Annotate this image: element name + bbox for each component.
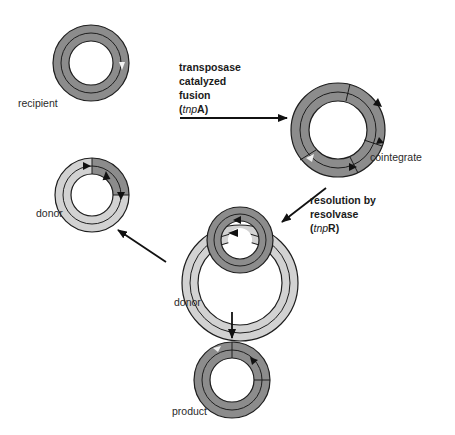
step-fusion-line3: fusion	[179, 88, 241, 102]
enzyme-prefix: tnp	[314, 222, 329, 234]
enzyme-prefix: tnp	[183, 103, 198, 115]
label-product: product	[172, 405, 207, 417]
donor-bottom-plasmid	[182, 207, 298, 341]
step-resolution-enzyme: (tnpR)	[310, 221, 376, 235]
label-donor-bottom: donor	[174, 296, 201, 308]
step-resolution-line2: resolvase	[310, 207, 376, 221]
label-cointegrate: cointegrate	[370, 151, 422, 163]
step-fusion-enzyme: (tnpA)	[179, 102, 241, 116]
label-recipient: recipient	[18, 97, 58, 109]
step-fusion-label: transposase catalyzed fusion (tnpA)	[179, 60, 241, 116]
recipient-plasmid	[53, 25, 129, 101]
enzyme-suffix: R	[328, 222, 336, 234]
arrow-to-donor	[118, 230, 166, 262]
label-donor-top: donor	[36, 207, 63, 219]
step-fusion-line1: transposase	[179, 60, 241, 74]
step-resolution-label: resolution by resolvase (tnpR)	[310, 193, 376, 235]
donor-top-plasmid	[55, 158, 129, 232]
enzyme-suffix: A	[197, 103, 205, 115]
step-resolution-line1: resolution by	[310, 193, 376, 207]
step-fusion-line2: catalyzed	[179, 74, 241, 88]
